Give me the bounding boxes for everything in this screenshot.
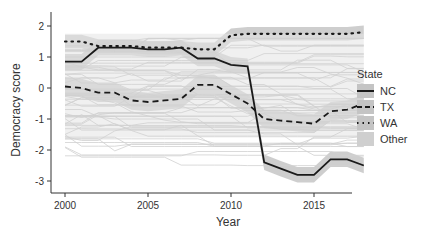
x-tick-label: 2010 [220, 200, 243, 211]
legend-label-wa: WA [380, 117, 398, 129]
y-tick-label: 1 [38, 52, 44, 63]
legend-label-other: Other [380, 133, 408, 145]
x-tick-label: 2005 [137, 200, 160, 211]
y-axis-label: Democracy score [9, 63, 23, 157]
legend-key-wa [357, 116, 374, 130]
y-tick-label: 0 [38, 83, 44, 94]
x-axis-label: Year [216, 215, 240, 229]
chart-svg: -3-2-10122000200520102015 Year Democracy… [0, 0, 434, 240]
y-tick-label: -1 [35, 114, 44, 125]
y-tick-label: -3 [35, 176, 44, 187]
other-states-lines [65, 34, 364, 167]
legend-title: State [357, 68, 383, 80]
legend: State NC TX WA Other [357, 68, 408, 146]
legend-label-nc: NC [380, 85, 396, 97]
y-tick-label: -2 [35, 145, 44, 156]
legend-key-other [357, 132, 374, 146]
x-tick-label: 2000 [54, 200, 77, 211]
democracy-score-chart: -3-2-10122000200520102015 Year Democracy… [0, 0, 434, 240]
x-tick-label: 2015 [303, 200, 326, 211]
y-tick-label: 2 [38, 21, 44, 32]
legend-label-tx: TX [380, 101, 395, 113]
